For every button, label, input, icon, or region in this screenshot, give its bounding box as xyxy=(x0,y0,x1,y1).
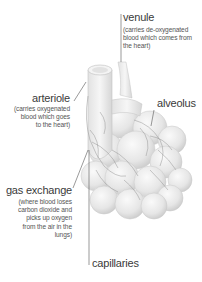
gas-exchange-description: (where blood loses carbon dioxide and pi… xyxy=(0,198,72,239)
capillaries-label: capillaries xyxy=(92,258,139,269)
gas-exchange-label: gas exchange xyxy=(0,185,72,196)
venule-label: venule xyxy=(123,12,154,23)
venule-description: (carries de-oxygenated blood which comes… xyxy=(123,26,201,51)
arteriole-label: arteriole xyxy=(0,93,70,104)
alveolus-label: alveolus xyxy=(157,98,196,109)
arteriole-description: (carries oxygenated blood which goes to … xyxy=(0,105,70,130)
venule-vessel xyxy=(112,62,142,116)
